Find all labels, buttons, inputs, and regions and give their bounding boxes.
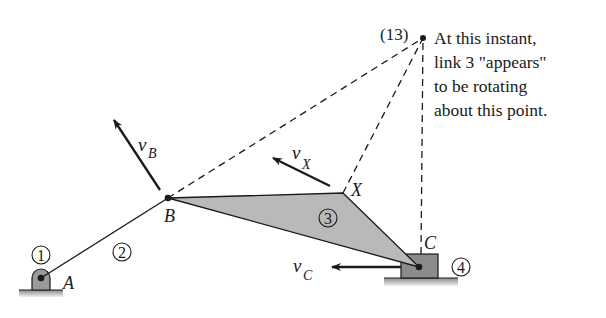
svg-text:v: v — [138, 134, 147, 155]
link-label-2: 2 — [113, 243, 131, 261]
label-A: A — [62, 273, 75, 293]
label-vC: v C — [293, 255, 313, 283]
link-label-4: 4 — [452, 258, 470, 276]
label-vB: v B — [138, 134, 157, 161]
label-instant-center-13: (13) — [380, 25, 408, 44]
pin-B — [165, 195, 172, 202]
pin-A — [38, 275, 45, 282]
link-label-1: 1 — [32, 246, 50, 264]
instant-center-13 — [420, 35, 426, 41]
svg-text:X: X — [301, 157, 311, 172]
svg-text:3: 3 — [324, 210, 332, 227]
svg-text:v: v — [292, 142, 301, 163]
annotation-line: about this point. — [434, 98, 604, 122]
label-C: C — [424, 233, 437, 253]
annotation-line: link 3 "appears" — [434, 50, 604, 74]
line-X-to-13 — [343, 38, 423, 193]
svg-text:2: 2 — [118, 244, 126, 261]
label-X: X — [350, 180, 363, 200]
link-2-crank — [41, 198, 168, 278]
instant-center-annotation: At this instant, link 3 "appears" to be … — [434, 26, 604, 122]
svg-text:1: 1 — [37, 247, 45, 264]
annotation-line: At this instant, — [434, 26, 604, 50]
svg-text:C: C — [303, 268, 313, 283]
ground-slider — [384, 278, 458, 286]
line-C-to-13 — [421, 38, 423, 254]
label-B: B — [164, 206, 175, 226]
line-B-to-13 — [168, 38, 423, 198]
svg-text:B: B — [148, 146, 157, 161]
pin-C — [416, 264, 423, 271]
ground-A — [19, 290, 63, 297]
svg-text:v: v — [293, 255, 302, 276]
annotation-line: to be rotating — [434, 74, 604, 98]
svg-text:4: 4 — [457, 259, 465, 276]
